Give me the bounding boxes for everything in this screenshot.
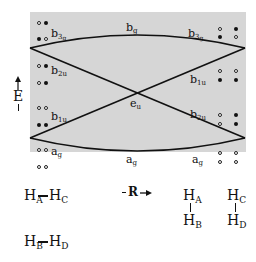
dot-filled [37,123,41,127]
dot-open [234,160,238,164]
dot-filled [234,122,238,126]
atom-ha: HA [24,188,43,207]
atom-hc-right: HC [227,188,246,207]
dot-open [44,37,48,41]
label-center-ag: ag [126,154,137,169]
dot-filled [44,21,48,25]
label-center-bg: bg [126,22,138,37]
dot-open [37,106,41,110]
label-left-ag: ag [51,146,62,161]
label-left-b2u: b2u [51,65,67,80]
bond-ha-hc [38,195,48,197]
atom-hd-right: HD [227,213,246,232]
correlation-diagram: E b3g b2u b1u ag bg eu ag b3g b1u b2u ag [0,0,256,262]
dot-open [37,148,41,152]
dot-filled [44,81,48,85]
dot-open [234,69,238,73]
dot-open [37,165,41,169]
atom-hd: HD [49,234,68,253]
dot-open [44,106,48,110]
atom-hb: HB [24,234,43,253]
dot-open [218,160,222,164]
bond-hc-hd [235,203,236,212]
dot-open [218,122,222,126]
dot-open [218,151,222,155]
energy-label: E [13,88,23,104]
r-label: R [128,185,138,199]
dot-filled [234,113,238,117]
dot-filled [44,64,48,68]
dot-filled [37,37,41,41]
label-right-b2u: b2u [190,109,206,124]
bond-hb-hd [38,241,48,243]
dot-open [234,35,238,39]
label-left-b3g: b3g [51,28,66,43]
label-right-b3g: b3g [188,28,203,43]
atom-hb-right: HB [183,213,202,232]
dot-open [37,21,41,25]
right-arrow-icon [140,189,152,197]
dot-filled [218,35,222,39]
dot-open [218,113,222,117]
dot-open [44,165,48,169]
dot-open [44,148,48,152]
dot-filled [234,78,238,82]
dot-open [37,64,41,68]
energy-tick [18,104,19,111]
label-center-eu: eu [130,98,141,113]
label-right-ag: ag [192,154,203,169]
dot-filled [218,78,222,82]
label-right-b1u: b1u [190,74,206,89]
atom-ha-right: HA [183,188,202,207]
dot-filled [234,27,238,31]
atom-hc: HC [49,188,68,207]
bond-ha-hb [190,203,191,212]
dot-filled [44,123,48,127]
dot-open [218,27,222,31]
r-dash [122,192,126,193]
dot-open [37,81,41,85]
label-left-b1u: b1u [51,111,67,126]
dot-open [218,69,222,73]
dot-open [234,151,238,155]
